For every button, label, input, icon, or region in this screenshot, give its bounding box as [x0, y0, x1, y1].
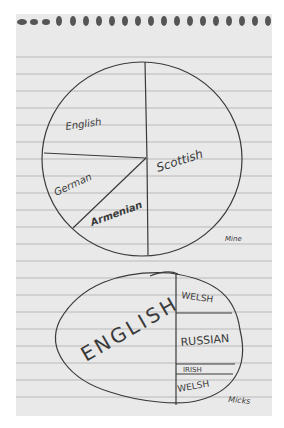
ruled-lines: [16, 57, 272, 397]
label-irish: IRISH: [183, 366, 202, 374]
author-micks: Micks: [228, 395, 251, 406]
drawing-canvas: English Scottish German Armenian Mine EN…: [0, 0, 284, 428]
spiral-binding: [17, 16, 271, 26]
author-mine: Mine: [225, 235, 242, 243]
label-armenian: Armenian: [88, 199, 144, 228]
label-english: English: [65, 116, 102, 132]
label-welsh-bottom: WELSH: [177, 379, 210, 394]
label-welsh-top: WELSH: [181, 290, 214, 304]
label-scottish: Scottish: [155, 147, 205, 175]
label-german: German: [52, 171, 93, 198]
